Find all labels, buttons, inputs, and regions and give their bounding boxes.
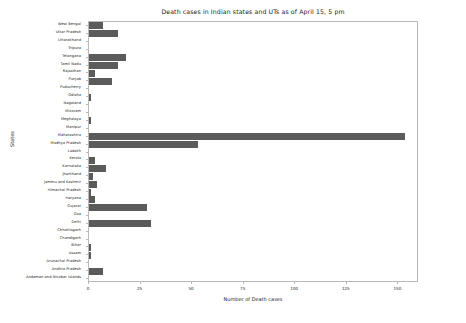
y-tick-label: Kerala bbox=[69, 157, 81, 161]
bar-row bbox=[89, 157, 418, 164]
bar-row bbox=[89, 173, 418, 180]
bar bbox=[89, 220, 151, 227]
y-tick-mark bbox=[86, 239, 88, 240]
x-tick-mark bbox=[140, 282, 141, 284]
bar bbox=[89, 173, 93, 180]
y-tick-label: Bihar bbox=[71, 244, 81, 248]
bar bbox=[89, 78, 112, 85]
bar bbox=[89, 117, 91, 124]
x-tick-label: 25 bbox=[137, 286, 142, 291]
y-tick-mark bbox=[86, 278, 88, 279]
y-tick-label: Assam bbox=[69, 252, 81, 256]
y-tick-mark bbox=[86, 215, 88, 216]
x-tick-mark bbox=[243, 282, 244, 284]
y-tick-mark bbox=[86, 112, 88, 113]
bar-row bbox=[89, 70, 418, 77]
bar-row bbox=[89, 46, 418, 53]
y-tick-mark bbox=[86, 270, 88, 271]
x-tick-label: 100 bbox=[290, 286, 298, 291]
y-tick-mark bbox=[86, 65, 88, 66]
y-tick-mark bbox=[86, 104, 88, 105]
x-tick-label: 50 bbox=[189, 286, 194, 291]
bar bbox=[89, 196, 95, 203]
bar-row bbox=[89, 86, 418, 93]
x-tick-label: 75 bbox=[240, 286, 245, 291]
y-tick-label: Andhra Pradesh bbox=[52, 268, 81, 272]
y-tick-mark bbox=[86, 262, 88, 263]
bar-row bbox=[89, 117, 418, 124]
bar bbox=[89, 54, 126, 61]
plot-area bbox=[88, 21, 418, 282]
bar bbox=[89, 244, 91, 251]
bar bbox=[89, 133, 405, 140]
x-tick-label: 125 bbox=[342, 286, 350, 291]
y-tick-label: Chhattisgarh bbox=[57, 229, 81, 233]
bar-row bbox=[89, 181, 418, 188]
x-tick-label: 150 bbox=[393, 286, 401, 291]
x-tick-mark bbox=[88, 282, 89, 284]
y-tick-mark bbox=[86, 223, 88, 224]
bar bbox=[89, 157, 95, 164]
y-tick-label: Himachal Pradesh bbox=[48, 189, 81, 193]
y-tick-mark bbox=[86, 41, 88, 42]
y-tick-mark bbox=[86, 231, 88, 232]
bar bbox=[89, 189, 91, 196]
y-tick-label: Odisha bbox=[68, 94, 81, 98]
y-tick-label: West Bengal bbox=[58, 23, 81, 27]
bar-row bbox=[89, 189, 418, 196]
bar-row bbox=[89, 204, 418, 211]
y-tick-label: Karnataka bbox=[62, 165, 81, 169]
bar bbox=[89, 22, 103, 29]
bar-row bbox=[89, 252, 418, 259]
y-tick-mark bbox=[86, 246, 88, 247]
bar bbox=[89, 70, 95, 77]
y-tick-label: Telangana bbox=[62, 55, 81, 59]
bar-row bbox=[89, 236, 418, 243]
y-tick-mark bbox=[86, 88, 88, 89]
bar-row bbox=[89, 62, 418, 69]
bar-row bbox=[89, 228, 418, 235]
y-tick-label: Haryana bbox=[65, 197, 81, 201]
y-tick-mark bbox=[86, 33, 88, 34]
y-tick-mark bbox=[86, 167, 88, 168]
x-tick-mark bbox=[294, 282, 295, 284]
bar-row bbox=[89, 78, 418, 85]
y-tick-mark bbox=[86, 25, 88, 26]
y-tick-mark bbox=[86, 128, 88, 129]
y-tick-label: Uttarakhand bbox=[58, 39, 81, 43]
y-tick-label: Meghalaya bbox=[61, 118, 81, 122]
y-tick-mark bbox=[86, 57, 88, 58]
x-tick-label: 0 bbox=[87, 286, 90, 291]
bar-row bbox=[89, 30, 418, 37]
bar bbox=[89, 181, 97, 188]
y-tick-mark bbox=[86, 49, 88, 50]
bar-row bbox=[89, 125, 418, 132]
y-tick-label: Maharashtra bbox=[58, 134, 81, 138]
y-tick-label: Arunachal Pradesh bbox=[46, 260, 81, 264]
y-tick-label: Punjab bbox=[69, 78, 81, 82]
x-tick-mark bbox=[346, 282, 347, 284]
y-tick-mark bbox=[86, 80, 88, 81]
bar-row bbox=[89, 196, 418, 203]
y-tick-label: Gujarat bbox=[67, 205, 81, 209]
y-tick-mark bbox=[86, 191, 88, 192]
y-tick-label: Uttar Pradesh bbox=[56, 31, 81, 35]
bar-row bbox=[89, 165, 418, 172]
y-tick-mark bbox=[86, 183, 88, 184]
y-tick-mark bbox=[86, 207, 88, 208]
chart-title: Death cases in Indian states and UTs as … bbox=[88, 8, 418, 15]
y-tick-label: Andaman and Nicobar Islands bbox=[26, 276, 81, 280]
y-tick-label: Madhya Pradesh bbox=[51, 142, 81, 146]
bar-row bbox=[89, 54, 418, 61]
y-tick-mark bbox=[86, 120, 88, 121]
y-tick-label: Manipur bbox=[66, 126, 81, 130]
y-tick-mark bbox=[86, 152, 88, 153]
y-tick-mark bbox=[86, 96, 88, 97]
chart-figure: Death cases in Indian states and UTs as … bbox=[0, 0, 466, 323]
bar-row bbox=[89, 220, 418, 227]
y-tick-label: Jammu and Kashmir bbox=[44, 181, 81, 185]
y-tick-label: Rajasthan bbox=[63, 70, 81, 74]
y-tick-mark bbox=[86, 254, 88, 255]
bar-row bbox=[89, 133, 418, 140]
bar-row bbox=[89, 268, 418, 275]
